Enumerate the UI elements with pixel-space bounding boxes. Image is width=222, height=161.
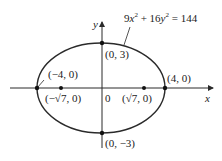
equation-label: 9x2 + 16y2 = 144 [124, 11, 198, 24]
ellipse-diagram: y x 0 9x2 + 16y2 = 144 (0, 3) (0, −3) (−… [0, 0, 222, 161]
origin-label: 0 [105, 92, 111, 104]
point-left-vertex [35, 86, 39, 90]
y-axis-label: y [92, 18, 98, 30]
point-top [100, 41, 104, 45]
label-left-focus: (−√7, 0) [45, 92, 81, 105]
point-right-vertex [163, 86, 167, 90]
x-axis-label: x [204, 92, 210, 104]
label-left-vertex: (−4, 0) [48, 68, 78, 81]
equation-leader-line [124, 27, 130, 45]
label-top-point: (0, 3) [105, 48, 129, 61]
point-left-focus [59, 86, 63, 90]
label-bottom-point: (0, −3) [105, 137, 135, 150]
label-right-focus: (√7, 0) [122, 92, 152, 105]
label-right-vertex: (4, 0) [167, 72, 191, 85]
point-bottom [100, 131, 104, 135]
point-right-focus [142, 86, 146, 90]
